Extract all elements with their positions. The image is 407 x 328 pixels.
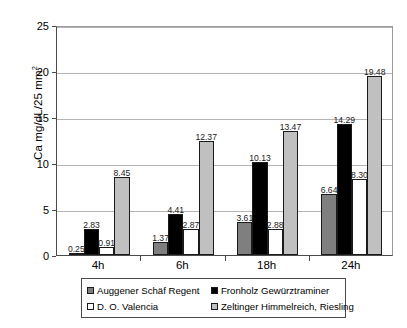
bar-value-label: 4.41 [167,205,184,215]
legend-item-fronholz-gewurztraminer: Fronholz Gewürztraminer [211,285,354,296]
y-axis-tick-label: 25 [9,20,49,32]
legend-label-series-1: Fronholz Gewürztraminer [221,285,329,296]
bar-value-label: 3.61 [236,213,253,223]
bar-value-label: 8.45 [114,168,131,178]
x-axis-label-6h: 6h [176,259,189,271]
legend-swatch-icon-series-3 [211,303,218,310]
x-axis-tick-mark [309,256,310,261]
bar-24h-series-0 [321,194,336,255]
bar-24h-series-1 [337,124,352,255]
legend-label-series-3: Zeltinger Himmelreich, Riesling [221,301,354,312]
bar-24h-series-2 [352,179,367,255]
legend-swatch-icon-series-1 [211,287,218,294]
bar-value-label: 2.87 [183,220,200,230]
x-axis-label-24h: 24h [341,259,360,271]
y-axis-tick-label: 0 [9,250,49,262]
bar-value-label: 10.13 [249,153,271,163]
bar-value-label: 2.88 [267,220,284,230]
plot-area: 0.252.830.918.451.374.412.8712.373.6110.… [56,26,393,256]
x-axis-label-4h: 4h [92,259,105,271]
bar-value-label: 0.25 [68,244,85,254]
bar-24h-series-3 [367,76,382,255]
chart-legend: Auggener Schäf Regent Fronholz Gewürztra… [81,278,346,318]
bar-value-label: 19.48 [364,67,386,77]
y-axis-tick-label: 5 [9,204,49,216]
legend-label-series-0: Auggener Schäf Regent [97,285,199,296]
legend-item-zeltinger-himmelreich-riesling: Zeltinger Himmelreich, Riesling [211,301,354,312]
bar-6h-series-2 [183,229,198,255]
bar-value-label: 14.29 [334,115,356,125]
x-axis-tick-mark [140,256,141,261]
bar-6h-series-0 [153,242,168,255]
bar-value-label: 8.30 [351,170,368,180]
y-axis-tick-label: 20 [9,66,49,78]
bar-4h-series-1 [84,229,99,255]
y-axis-tick-label: 10 [9,158,49,170]
y-axis-tick-mark [52,256,56,257]
legend-swatch-icon-series-2 [87,303,94,310]
bar-value-label: 0.91 [98,238,115,248]
bar-value-label: 13.47 [280,122,302,132]
bar-18h-series-1 [252,162,267,255]
bar-value-label: 12.37 [195,132,217,142]
legend-item-do-valencia: D. O. Valencia [87,301,211,312]
x-axis-label-18h: 18h [257,259,276,271]
bar-value-label: 6.64 [321,185,338,195]
bar-6h-series-3 [199,141,214,255]
bar-value-label: 2.83 [83,220,100,230]
bar-4h-series-2 [99,247,114,255]
bar-18h-series-3 [283,131,298,255]
legend-swatch-icon-series-0 [87,287,94,294]
gridline [57,73,392,74]
gridline [57,27,392,28]
y-axis-tick-label: 15 [9,112,49,124]
bar-18h-series-2 [268,229,283,255]
bar-4h-series-3 [114,177,129,255]
bar-18h-series-0 [237,222,252,255]
bar-chart: Ca mg/dL/25 mm2 0510152025 0.252.830.918… [0,0,407,328]
legend-item-auggener-schaf-regent: Auggener Schäf Regent [87,285,211,296]
bar-6h-series-1 [168,214,183,255]
bar-value-label: 1.37 [152,233,169,243]
x-axis-tick-mark [225,256,226,261]
legend-label-series-2: D. O. Valencia [97,301,158,312]
